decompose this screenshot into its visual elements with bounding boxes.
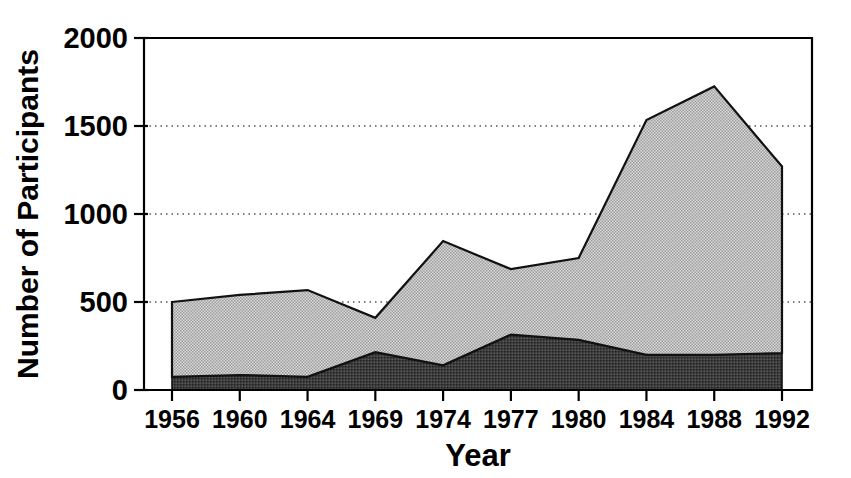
x-tick-label: 1956 (144, 405, 200, 433)
x-tick-label: 1974 (415, 405, 471, 433)
x-tick-label: 1984 (619, 405, 675, 433)
y-axis-tick-labels: 0500100015002000 (63, 22, 128, 406)
x-axis-tick-labels: 1956196019641969197419771980198419881992 (144, 405, 810, 433)
y-tick-label: 1500 (63, 110, 128, 142)
area-chart: 0500100015002000 19561960196419691974197… (0, 0, 851, 478)
x-axis-ticks (172, 390, 782, 401)
y-axis-title: Number of Participants (11, 49, 44, 379)
y-tick-label: 0 (112, 374, 128, 406)
x-tick-label: 1964 (280, 405, 336, 433)
x-tick-label: 1980 (551, 405, 607, 433)
y-tick-label: 1000 (63, 198, 128, 230)
y-tick-label: 500 (80, 286, 128, 318)
x-tick-label: 1977 (483, 405, 539, 433)
x-tick-label: 1992 (754, 405, 810, 433)
y-tick-label: 2000 (63, 22, 128, 54)
x-tick-label: 1988 (686, 405, 742, 433)
x-tick-label: 1969 (348, 405, 404, 433)
x-axis-title: Year (445, 438, 511, 473)
x-tick-label: 1960 (212, 405, 268, 433)
chart-figure: 0500100015002000 19561960196419691974197… (0, 0, 851, 478)
